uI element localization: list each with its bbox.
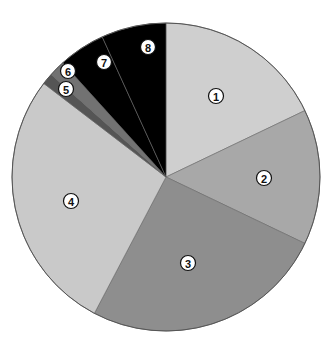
slice-label-1: 1 bbox=[209, 89, 224, 104]
slice-label-4: 4 bbox=[64, 194, 79, 209]
slice-label-6: 6 bbox=[61, 64, 76, 79]
slice-label-5: 5 bbox=[59, 82, 74, 97]
pie-slices bbox=[12, 23, 320, 331]
slice-number: 6 bbox=[65, 66, 71, 78]
slice-label-8: 8 bbox=[141, 40, 156, 55]
slice-number: 3 bbox=[185, 258, 191, 270]
slice-number: 2 bbox=[261, 173, 267, 185]
slice-label-3: 3 bbox=[181, 256, 196, 271]
slice-label-7: 7 bbox=[97, 55, 112, 70]
slice-label-2: 2 bbox=[257, 171, 272, 186]
slice-number: 7 bbox=[101, 57, 107, 69]
slice-number: 5 bbox=[63, 84, 69, 96]
slice-number: 1 bbox=[213, 91, 219, 103]
slice-number: 4 bbox=[68, 196, 75, 208]
slice-number: 8 bbox=[145, 42, 151, 54]
pie-chart: 12345678 bbox=[0, 0, 334, 360]
